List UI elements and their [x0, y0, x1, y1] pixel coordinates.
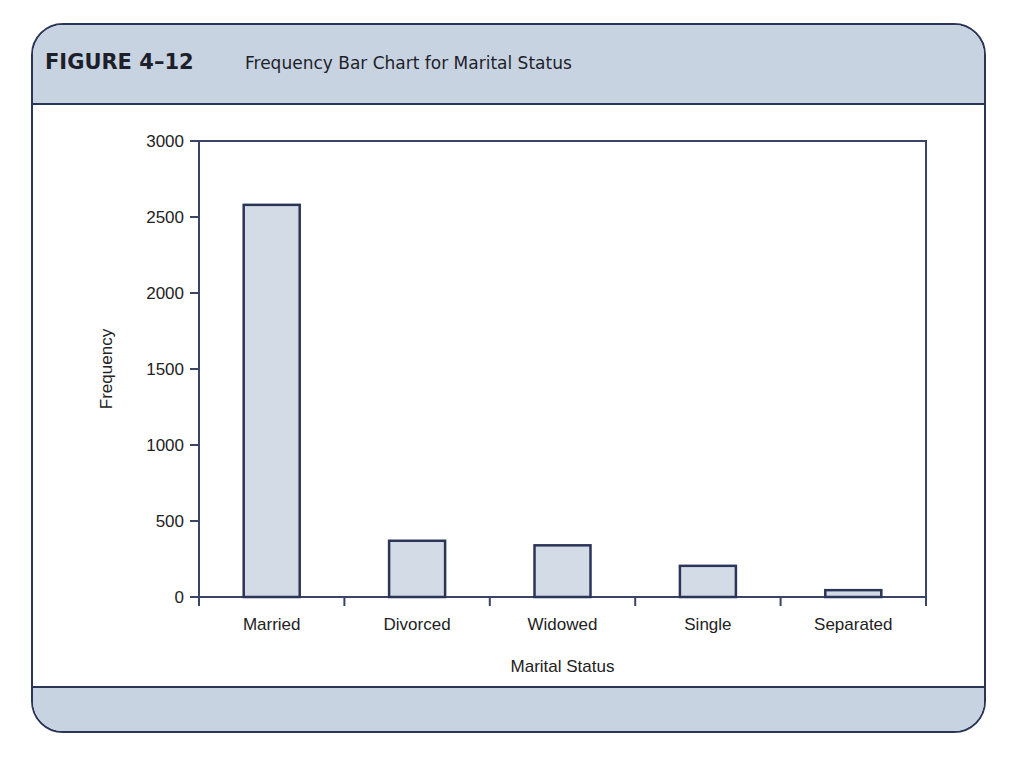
y-tick-label: 0	[175, 588, 184, 607]
x-category-label: Single	[684, 615, 731, 634]
bar-married	[244, 205, 300, 597]
y-tick-label: 1500	[146, 360, 184, 379]
x-category-label: Divorced	[384, 615, 451, 634]
x-category-label: Separated	[814, 615, 892, 634]
y-tick-label: 500	[156, 512, 184, 531]
bar-widowed	[535, 545, 591, 597]
x-category-label: Widowed	[528, 615, 598, 634]
bar-single	[680, 566, 736, 597]
x-category-label: Married	[243, 615, 301, 634]
y-tick-label: 2000	[146, 284, 184, 303]
x-axis-title: Marital Status	[511, 657, 615, 676]
bar-divorced	[389, 541, 445, 597]
bar-chart: 050010001500200025003000MarriedDivorcedW…	[0, 0, 1015, 759]
plot-area-border	[199, 141, 926, 597]
bar-separated	[825, 590, 881, 597]
y-axis-title: Frequency	[97, 328, 116, 409]
y-tick-label: 3000	[146, 132, 184, 151]
y-tick-label: 2500	[146, 208, 184, 227]
y-tick-label: 1000	[146, 436, 184, 455]
